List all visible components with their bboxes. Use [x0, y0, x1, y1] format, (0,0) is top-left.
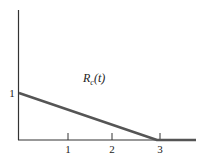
function-label: Rc(t) [82, 71, 105, 87]
x-tick-label-1: 1 [65, 143, 71, 155]
chart: 1 2 3 1 Rc(t) [0, 0, 216, 164]
x-tick-label-2: 2 [109, 143, 115, 155]
y-tick-label-1: 1 [9, 87, 15, 99]
x-tick-label-3: 3 [157, 143, 163, 155]
rc-series-line [19, 93, 196, 140]
